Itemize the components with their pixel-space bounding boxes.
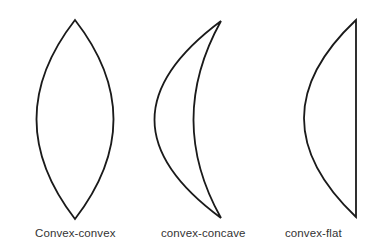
convex-convex-lens-shape xyxy=(37,20,114,219)
convex-flat-label: convex-flat xyxy=(285,227,342,239)
convex-concave-label: convex-concave xyxy=(161,227,246,239)
convex-convex-label: Convex-convex xyxy=(35,227,116,239)
convex-flat-lens-shape xyxy=(304,20,356,217)
convex-concave-lens-shape xyxy=(155,21,222,218)
lens-diagram xyxy=(0,0,378,252)
